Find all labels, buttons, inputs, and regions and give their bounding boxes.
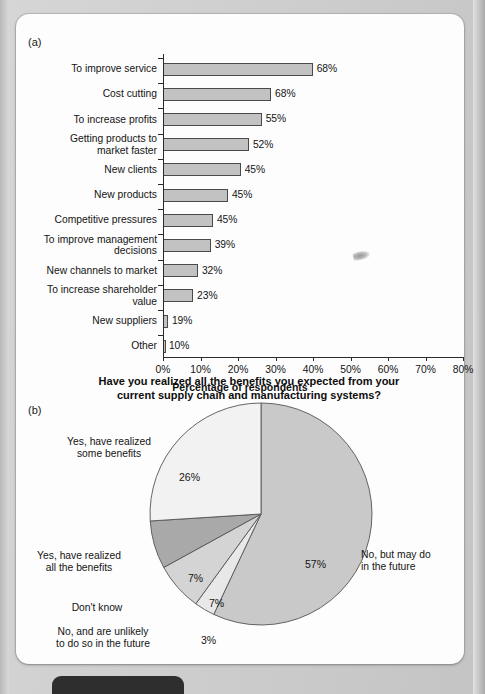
bar-value-label: 19% [172, 315, 193, 326]
figure-card: (a) To improve serviceCost cuttingTo inc… [16, 14, 464, 664]
pie-pct-3-unlikely: 3% [201, 634, 216, 646]
bar-value-label: 23% [197, 290, 218, 301]
bar-value-label: 68% [275, 88, 296, 99]
page-gutter-right [473, 0, 485, 694]
bar-category-label: New suppliers [19, 315, 157, 327]
pie-title-line-2: current supply chain and manufacturing s… [74, 388, 424, 402]
pie-pct-26: 26% [179, 471, 200, 483]
pie-slice [150, 403, 261, 521]
bar-category-label-line: Other [19, 340, 157, 352]
bar-value-label: 45% [245, 164, 266, 175]
pie-pct-7-dont-know: 7% [209, 597, 224, 609]
pie-title-line-1: Have you realized all the benefits you e… [74, 374, 424, 388]
pie-label-line: Yes, have realized [46, 436, 172, 448]
bar-chart-panel-a: To improve serviceCost cuttingTo increas… [16, 14, 464, 369]
bar-item [163, 138, 249, 151]
bar-category-label-line: To improve management [19, 234, 157, 246]
y-axis-tick [158, 209, 163, 210]
x-axis-tick [426, 357, 427, 361]
bar-item [163, 163, 241, 176]
pie-pct-7-all-benefits: 7% [188, 572, 203, 584]
y-axis-tick [158, 260, 163, 261]
x-axis-tick [163, 357, 164, 361]
bar-category-label-line: value [19, 296, 157, 308]
bar-category-label: New channels to market [19, 265, 157, 277]
page-gutter-left [0, 0, 9, 694]
bar-category-label-line: decisions [19, 245, 157, 257]
bar-category-label-line: Getting products to [19, 133, 157, 145]
y-axis-tick [158, 83, 163, 84]
y-axis-tick [158, 335, 163, 336]
bar-item [163, 239, 211, 252]
y-axis-tick [158, 310, 163, 311]
x-axis-tick [351, 357, 352, 361]
bar-value-label: 68% [317, 63, 338, 74]
pie-label-line: No, but may do [361, 549, 461, 561]
bar-value-label: 45% [232, 189, 253, 200]
bar-category-label-line: New clients [19, 164, 157, 176]
x-axis-tick [463, 357, 464, 361]
y-axis-tick [158, 184, 163, 185]
bar-category-label: To improve service [19, 63, 157, 75]
bar-category-label-line: Competitive pressures [19, 214, 157, 226]
bar-category-label: Other [19, 340, 157, 352]
bar-category-label: To increase profits [19, 114, 157, 126]
bar-item [163, 63, 313, 76]
bar-item [163, 264, 198, 277]
bar-category-label-line: New products [19, 189, 157, 201]
bar-category-label: To increase shareholdervalue [19, 284, 157, 307]
x-axis-tick [238, 357, 239, 361]
pie-label-line: in the future [361, 561, 461, 573]
bar-category-label-line: New channels to market [19, 265, 157, 277]
bar-category-label: Cost cutting [19, 88, 157, 100]
bar-item [163, 189, 228, 202]
y-axis-tick [158, 58, 163, 59]
y-axis-tick [158, 159, 163, 160]
bar-item [163, 289, 193, 302]
y-axis-line [163, 54, 164, 357]
pie-label-line: No, and are unlikely [23, 626, 183, 638]
x-axis-tick [388, 357, 389, 361]
pie-pct-57: 57% [305, 558, 326, 570]
bar-category-label: To improve managementdecisions [19, 234, 157, 257]
y-axis-tick [158, 234, 163, 235]
bar-item [163, 88, 271, 101]
bar-category-label-line: market faster [19, 145, 157, 157]
bar-category-label: Competitive pressures [19, 214, 157, 226]
pie-chart-title: Have you realized all the benefits you e… [74, 374, 424, 402]
bar-value-label: 45% [217, 214, 238, 225]
bar-category-label: New clients [19, 164, 157, 176]
pie-chart-panel-b: Have you realized all the benefits you e… [16, 374, 464, 664]
bar-category-label-line: New suppliers [19, 315, 157, 327]
bar-category-label: New products [19, 189, 157, 201]
pie-label-line: all the benefits [16, 562, 142, 574]
bar-value-label: 10% [169, 340, 190, 351]
pie-label-line: some benefits [46, 448, 172, 460]
x-axis-tick [201, 357, 202, 361]
bar-category-label-line: To improve service [19, 63, 157, 75]
y-axis-tick [158, 108, 163, 109]
pie-label-line: to do so in the future [23, 638, 183, 650]
bottom-page-tab[interactable] [52, 676, 184, 694]
bar-category-label-line: Cost cutting [19, 88, 157, 100]
bar-value-label: 52% [253, 139, 274, 150]
bar-value-label: 39% [215, 239, 236, 250]
y-axis-tick [158, 285, 163, 286]
scan-smudge-mark [352, 249, 370, 261]
bar-category-label: Getting products tomarket faster [19, 133, 157, 156]
x-axis-tick [276, 357, 277, 361]
pie-label-no-but-may-do: No, but may do in the future [361, 549, 461, 573]
pie-label-no-and-unlikely: No, and are unlikely to do so in the fut… [23, 626, 183, 650]
y-axis-tick [158, 134, 163, 135]
pie-label-dont-know: Don't know [32, 602, 162, 614]
bar-category-label-line: To increase profits [19, 114, 157, 126]
bar-category-label-line: To increase shareholder [19, 284, 157, 296]
x-axis-tick [313, 357, 314, 361]
bar-item [163, 113, 262, 126]
pie-label-yes-some-benefits: Yes, have realized some benefits [46, 436, 172, 460]
bar-item [163, 214, 213, 227]
pie-label-line: Yes, have realized [16, 550, 142, 562]
pie-label-yes-all-benefits: Yes, have realized all the benefits [16, 550, 142, 574]
bar-value-label: 55% [266, 113, 287, 124]
figure-page: (a) To improve serviceCost cuttingTo inc… [0, 0, 485, 694]
